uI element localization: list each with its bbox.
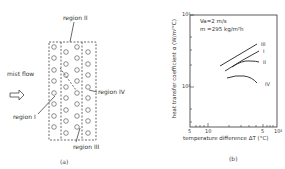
tube-bank-diagram	[10, 22, 97, 142]
mist-flow-arrow-icon	[10, 90, 24, 100]
y-tick-100: 10²	[182, 84, 190, 89]
x-tick-10: 10	[205, 129, 211, 134]
curve-label-iii: III	[261, 42, 265, 47]
leader-line-region-ii	[70, 22, 74, 42]
mass-flux-annotation: m =295 kg/m²h	[200, 27, 244, 33]
curve-label-i: I	[263, 49, 264, 54]
data-curves	[220, 44, 259, 83]
x-tick-5: 5	[188, 129, 191, 134]
curve-label-ii: II	[263, 60, 266, 65]
region-iii-label: region III	[73, 144, 99, 150]
panel-a-caption: (a)	[60, 158, 68, 165]
x-axis-label: temperature difference ΔT (°C)	[183, 136, 268, 142]
mist-flow-label: mist flow	[7, 71, 34, 77]
y-axis-label: heat transfer coefficient α (W/m²°C)	[172, 14, 178, 124]
curve-region-iv	[227, 76, 257, 83]
leader-line-region-i	[38, 96, 55, 114]
panel-b-caption: (b)	[229, 155, 238, 162]
region-iv-label: region IV	[98, 89, 125, 95]
y-axis-ticks	[190, 15, 194, 122]
x-tick-100: 10²	[274, 129, 282, 134]
y-tick-1000: 10³	[182, 12, 190, 17]
region-ii-label: region II	[63, 15, 87, 21]
x-axis-ticks	[196, 123, 273, 127]
velocity-annotation: Va=2 m/s	[200, 19, 227, 25]
region-i-label: region I	[13, 114, 36, 120]
tube-circles	[52, 45, 91, 136]
x-tick-50: 5	[261, 129, 264, 134]
curve-label-iv: IV	[265, 82, 270, 87]
curve-region-ii	[232, 61, 259, 67]
